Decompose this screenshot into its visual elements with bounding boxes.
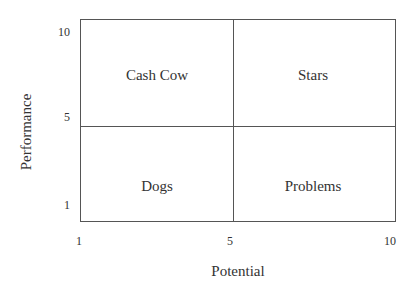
quadrant-label-dogs: Dogs xyxy=(141,178,173,195)
x-tick-min: 1 xyxy=(76,234,82,249)
quadrant-label-cash-cow: Cash Cow xyxy=(126,67,188,84)
quadrant-label-problems: Problems xyxy=(285,178,342,195)
x-tick-mid: 5 xyxy=(227,234,233,249)
vertical-divider xyxy=(233,20,234,221)
x-axis-title: Potential xyxy=(211,263,264,280)
horizontal-divider xyxy=(81,126,395,127)
quadrant-matrix: Cash Cow Stars Dogs Problems xyxy=(80,19,396,222)
y-tick-max: 10 xyxy=(58,25,70,40)
y-tick-mid: 5 xyxy=(64,110,70,125)
y-tick-min: 1 xyxy=(64,198,70,213)
y-axis-title: Performance xyxy=(18,94,35,171)
quadrant-label-stars: Stars xyxy=(298,67,328,84)
x-tick-max: 10 xyxy=(384,234,396,249)
